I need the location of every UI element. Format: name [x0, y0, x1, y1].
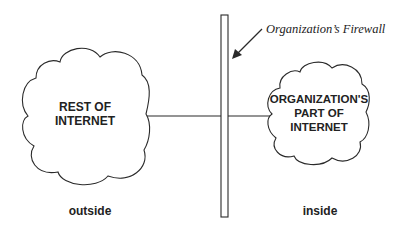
organization-line1: ORGANIZATION'S	[268, 93, 370, 107]
firewall-bar	[221, 15, 228, 217]
outside-label: outside	[55, 204, 125, 218]
organization-line2: PART OF	[268, 107, 370, 121]
rest-of-internet-line2: INTERNET	[45, 114, 125, 128]
inside-label: inside	[285, 204, 355, 218]
organization-label: ORGANIZATION'S PART OF INTERNET	[268, 93, 370, 134]
rest-of-internet-label: REST OF INTERNET	[45, 100, 125, 129]
firewall-pointer-arrow	[236, 29, 262, 55]
firewall-label: Organization’s Firewall	[266, 22, 385, 37]
firewall-diagram: Organization’s Firewall REST OF INTERNET…	[0, 0, 401, 231]
organization-line3: INTERNET	[268, 121, 370, 135]
rest-of-internet-line1: REST OF	[45, 100, 125, 114]
